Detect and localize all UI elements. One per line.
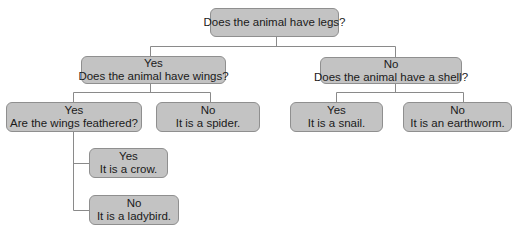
- node-question: Does the animal have a shell?: [314, 71, 468, 84]
- node-snail: Yes It is a snail.: [290, 102, 383, 132]
- node-question: Does the animal have legs?: [204, 16, 346, 29]
- node-ladybird: No It is a ladybird.: [89, 195, 179, 225]
- node-spider: No It is a spider.: [156, 102, 260, 132]
- node-result: It is a crow.: [100, 163, 158, 176]
- connector-legs-no: [337, 84, 464, 102]
- node-answer: Yes: [65, 104, 84, 117]
- node-wings-feathered: Yes Are the wings feathered?: [6, 102, 142, 132]
- node-has-wings: Yes Does the animal have wings?: [81, 56, 226, 84]
- node-answer: No: [201, 104, 216, 117]
- connector-wings-yes: [74, 132, 90, 211]
- node-result: It is a ladybird.: [97, 210, 171, 223]
- node-has-shell: No Does the animal have a shell?: [320, 57, 462, 84]
- node-result: It is a spider.: [176, 117, 241, 130]
- connector-root: [151, 37, 396, 57]
- node-answer: Yes: [144, 57, 163, 70]
- node-question: Are the wings feathered?: [10, 117, 138, 130]
- node-result: It is an earthworm.: [410, 117, 505, 130]
- node-has-legs: Does the animal have legs?: [210, 8, 339, 37]
- node-result: It is a snail.: [308, 117, 366, 130]
- connector-legs-yes: [74, 84, 211, 102]
- node-answer: Yes: [327, 104, 346, 117]
- node-answer: No: [127, 197, 142, 210]
- node-earthworm: No It is an earthworm.: [403, 102, 512, 132]
- node-answer: No: [384, 58, 399, 71]
- node-crow: Yes It is a crow.: [89, 148, 168, 178]
- node-answer: No: [450, 104, 465, 117]
- node-question: Does the animal have wings?: [78, 70, 228, 83]
- node-answer: Yes: [119, 150, 138, 163]
